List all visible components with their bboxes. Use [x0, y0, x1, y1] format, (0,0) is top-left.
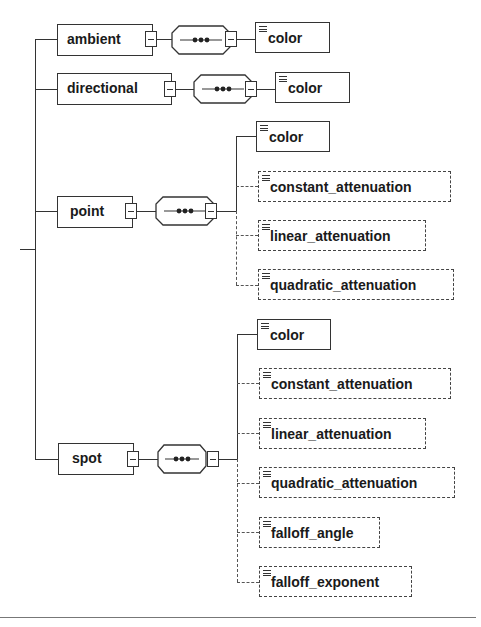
element-label: spot [72, 450, 102, 466]
element-label: quadratic_attenuation [271, 475, 417, 491]
connector [176, 89, 194, 90]
connector [219, 459, 238, 460]
element-spot-color[interactable]: color [257, 319, 331, 350]
sequence-compositor-icon[interactable] [193, 74, 253, 104]
connector [236, 186, 258, 187]
page-divider [0, 617, 476, 618]
element-point[interactable]: point [57, 196, 133, 228]
element-icon [262, 224, 270, 231]
element-spot-linear-attenuation[interactable]: linear_attenuation [259, 418, 426, 449]
collapse-toggle-icon[interactable] [245, 81, 257, 97]
point-children-optional-line [236, 211, 237, 285]
element-icon [263, 372, 271, 379]
element-icon [263, 570, 271, 577]
collapse-toggle-icon[interactable] [164, 81, 176, 97]
element-spot-quadratic-attenuation[interactable]: quadratic_attenuation [259, 467, 455, 498]
collapse-toggle-icon[interactable] [225, 31, 237, 47]
connector [237, 383, 259, 384]
element-label: color [288, 80, 322, 96]
element-label: falloff_angle [271, 525, 353, 541]
root-connector [20, 249, 36, 250]
point-children-line [236, 136, 237, 211]
element-label: ambient [67, 31, 121, 47]
element-icon [279, 76, 287, 83]
element-icon [262, 175, 270, 182]
sequence-compositor-icon[interactable] [157, 444, 207, 474]
element-spot-falloff-angle[interactable]: falloff_angle [259, 517, 380, 548]
element-icon [263, 471, 271, 478]
element-label: point [70, 203, 104, 219]
directional-connector [35, 89, 57, 90]
element-icon [261, 323, 269, 330]
connector [236, 136, 256, 137]
ambient-connector [35, 39, 57, 40]
element-ambient[interactable]: ambient [57, 24, 153, 56]
element-label: constant_attenuation [270, 179, 412, 195]
element-point-linear-attenuation[interactable]: linear_attenuation [258, 220, 426, 251]
collapse-toggle-icon[interactable] [205, 203, 217, 219]
connector [157, 39, 172, 40]
collapse-toggle-icon[interactable] [127, 451, 139, 467]
element-point-color[interactable]: color [256, 121, 330, 152]
element-icon [262, 273, 270, 280]
element-point-quadratic-attenuation[interactable]: quadratic_attenuation [258, 269, 454, 300]
connector [237, 433, 259, 434]
connector [217, 211, 236, 212]
connector [237, 582, 259, 583]
connector [137, 211, 156, 212]
element-label: directional [67, 80, 138, 96]
element-label: linear_attenuation [271, 426, 392, 442]
spot-connector [35, 459, 58, 460]
element-spot-constant-attenuation[interactable]: constant_attenuation [259, 368, 451, 399]
connector [237, 483, 259, 484]
connector [257, 89, 275, 90]
connector [236, 285, 258, 286]
element-label: quadratic_attenuation [270, 277, 416, 293]
root-branch-line [35, 39, 36, 460]
element-icon [259, 26, 267, 33]
spot-children-optional-line [237, 459, 238, 582]
connector [139, 459, 158, 460]
element-spot-falloff-exponent[interactable]: falloff_exponent [259, 566, 412, 597]
connector [237, 532, 259, 533]
element-label: constant_attenuation [271, 376, 413, 392]
element-spot[interactable]: spot [58, 443, 134, 475]
collapse-toggle-icon[interactable] [145, 31, 157, 47]
element-label: falloff_exponent [271, 574, 379, 590]
collapse-toggle-icon[interactable] [125, 203, 137, 219]
collapse-toggle-icon[interactable] [207, 451, 219, 467]
element-icon [263, 521, 271, 528]
element-ambient-color[interactable]: color [255, 22, 330, 53]
connector [236, 235, 258, 236]
element-point-constant-attenuation[interactable]: constant_attenuation [258, 171, 451, 202]
element-icon [260, 125, 268, 132]
element-label: linear_attenuation [270, 228, 391, 244]
element-label: color [269, 129, 303, 145]
element-directional[interactable]: directional [57, 73, 172, 105]
point-connector [35, 211, 57, 212]
connector [237, 39, 255, 40]
spot-children-line [237, 334, 238, 459]
element-directional-color[interactable]: color [275, 72, 350, 103]
sequence-compositor-icon[interactable] [171, 25, 231, 55]
element-icon [263, 422, 271, 429]
connector [237, 334, 257, 335]
element-label: color [270, 327, 304, 343]
element-label: color [268, 30, 302, 46]
